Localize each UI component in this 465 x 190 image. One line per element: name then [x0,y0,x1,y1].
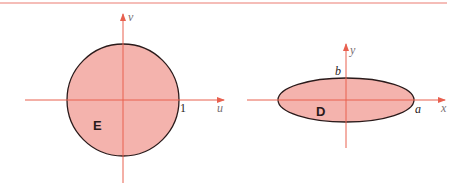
region-e-label: E [93,118,102,133]
semi-minor-label: b [335,64,341,78]
radius-label: 1 [180,101,186,115]
semi-major-label: a [415,102,421,116]
y-axis-label: y [349,43,356,57]
left-figure [25,14,224,183]
x-axis-label: x [440,101,447,115]
u-axis-label: u [217,101,223,115]
v-axis-label: v [128,10,134,24]
figure-canvas: v u 1 E y b a x D [0,0,465,190]
region-d-label: D [316,104,325,119]
right-figure [247,44,445,148]
